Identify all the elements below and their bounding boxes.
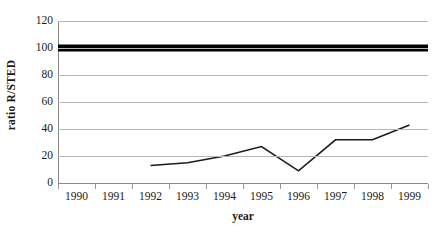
y-axis-tick-label: 80: [42, 69, 54, 81]
y-axis-tick-labels: 020406080100120: [22, 0, 56, 242]
x-axis-tick-label: 1995: [250, 190, 273, 203]
plot-area: [58, 21, 428, 183]
x-axis-ticks: [58, 184, 428, 189]
x-axis-tick: [95, 184, 96, 189]
y-axis-title-text: ratio R/STED: [5, 60, 17, 130]
x-axis-tick-label: 1994: [213, 190, 236, 203]
x-axis-tick: [317, 184, 318, 189]
y-axis-tick-label: 60: [42, 96, 54, 108]
x-axis-title: year: [58, 210, 428, 222]
gridline: [58, 21, 428, 22]
x-axis-tick-label: 1998: [361, 190, 384, 203]
x-axis-tick-label: 1990: [65, 190, 88, 203]
y-axis-tick-label: 120: [36, 15, 53, 27]
x-axis-tick-label: 1992: [139, 190, 162, 203]
x-axis-tick: [391, 184, 392, 189]
x-axis-tick-label: 1996: [287, 190, 310, 203]
gridline: [58, 129, 428, 130]
chart-figure: ratio R/STED 020406080100120 19901991199…: [0, 0, 435, 242]
x-axis-tick: [58, 184, 59, 189]
data-line: [151, 125, 410, 171]
x-axis-tick-label: 1999: [398, 190, 421, 203]
x-axis-tick: [132, 184, 133, 189]
x-axis-tick-labels: 1990199119921993199419951996199719981999: [58, 190, 428, 206]
y-axis-tick-label: 0: [47, 177, 53, 189]
x-axis-tick: [354, 184, 355, 189]
gridline: [58, 48, 428, 49]
gridline: [58, 75, 428, 76]
gridline: [58, 102, 428, 103]
x-axis-tick: [280, 184, 281, 189]
x-axis-tick-label: 1997: [324, 190, 347, 203]
y-axis-tick-label: 40: [42, 123, 54, 135]
y-axis-tick-label: 100: [36, 42, 53, 54]
x-axis-tick-label: 1991: [102, 190, 125, 203]
y-axis-title: ratio R/STED: [0, 0, 22, 190]
x-axis-tick: [243, 184, 244, 189]
x-axis-tick: [206, 184, 207, 189]
x-axis-tick: [428, 184, 429, 189]
gridline: [58, 156, 428, 157]
x-axis-tick: [169, 184, 170, 189]
x-axis-tick-label: 1993: [176, 190, 199, 203]
y-axis-tick-label: 20: [42, 150, 54, 162]
